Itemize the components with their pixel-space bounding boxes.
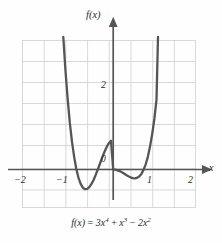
x-tick-label-pos2: 2	[188, 175, 193, 185]
y-axis-label: f(x)	[86, 10, 101, 21]
caption-plus: +	[109, 217, 120, 228]
caption-equals: =	[85, 217, 96, 228]
caption-term3: 2x	[138, 217, 147, 228]
x-tick-label-pos1: 1	[147, 175, 152, 185]
caption-term1: 3x	[96, 217, 105, 228]
x-tick-label-neg1: −1	[56, 175, 68, 185]
caption-term3-exponent: 2	[147, 216, 151, 224]
y-tick-label-2: 2	[101, 80, 106, 90]
figure-caption: f(x) = 3x4 + x3 − 2x2	[0, 216, 222, 228]
function-plot-figure: f(x) x −2 −1 1 2 2 0 f(x) = 3x4 + x3 − 2…	[0, 0, 222, 243]
curve-path	[63, 37, 158, 189]
x-axis-label: x	[209, 163, 213, 173]
caption-minus: −	[127, 217, 138, 228]
function-curve	[0, 0, 222, 243]
caption-fx: f(x)	[71, 217, 85, 228]
x-tick-label-neg2: −2	[14, 175, 26, 185]
origin-label: 0	[101, 155, 106, 165]
